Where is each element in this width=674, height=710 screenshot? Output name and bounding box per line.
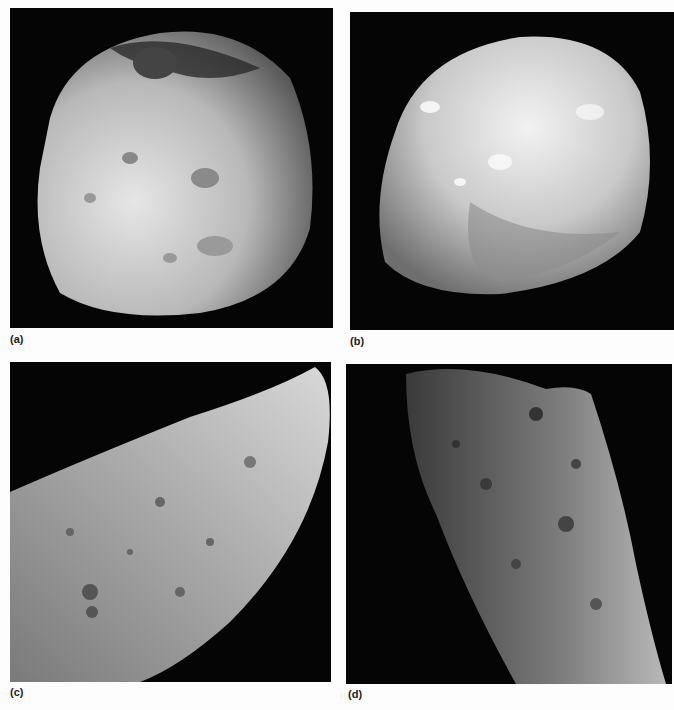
moon-image-b xyxy=(350,12,674,330)
photo-panel-d xyxy=(346,364,672,684)
asteroid-image-d xyxy=(346,364,672,684)
panel-label-d: (d) xyxy=(348,688,362,700)
photo-panel-b xyxy=(350,12,674,330)
asteroid-image-c xyxy=(10,362,331,682)
photo-panel-c xyxy=(10,362,331,682)
photo-panel-a xyxy=(10,8,333,328)
panel-label-a: (a) xyxy=(10,333,23,345)
moon-image-a xyxy=(10,8,333,328)
panel-label-b: (b) xyxy=(350,335,364,347)
panel-label-c: (c) xyxy=(10,686,23,698)
